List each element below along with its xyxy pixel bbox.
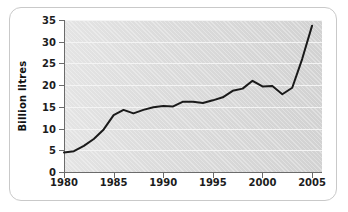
y-tick-label: 0: [49, 167, 56, 178]
x-tick-label: 1995: [199, 177, 227, 188]
x-tick-label: 1990: [149, 177, 177, 188]
y-tick-label: 30: [42, 36, 56, 47]
y-tick-label: 35: [42, 15, 56, 26]
y-axis-title-wrap: Billion litres: [28, 0, 29, 212]
chart-figure: 05101520253035 198019851990199520002005 …: [0, 0, 348, 212]
x-tick-label: 1985: [100, 177, 128, 188]
x-tick-label: 2000: [249, 177, 277, 188]
x-tick-label: 1980: [50, 177, 78, 188]
y-tick-label: 10: [42, 123, 56, 134]
y-tick-label: 25: [42, 58, 56, 69]
y-tick-label: 15: [42, 101, 56, 112]
x-tick-label: 2005: [298, 177, 326, 188]
data-series-line: [64, 20, 322, 172]
x-axis-line: [64, 172, 322, 173]
y-tick-label: 5: [49, 145, 56, 156]
y-axis-title: Billion litres: [17, 61, 28, 132]
y-tick-label: 20: [42, 80, 56, 91]
